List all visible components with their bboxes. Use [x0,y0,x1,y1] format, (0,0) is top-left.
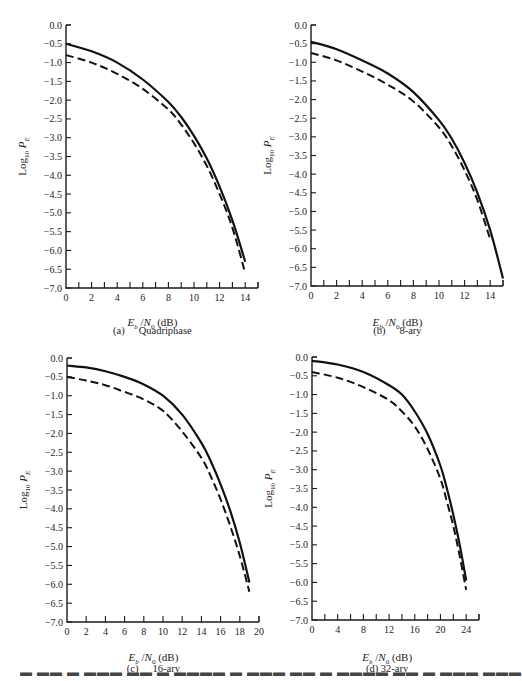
x-tick-label: 0 [309,290,314,301]
x-tick-label: 12 [460,290,470,301]
x-tick-label: 6 [140,292,145,303]
y-tick-label: −3.0 [44,132,62,143]
y-tick-label: −3.0 [290,464,308,475]
y-tick-label: −7.0 [289,281,307,292]
y-tick-label: −6.5 [44,264,62,275]
x-tick-label: 14 [196,626,206,637]
chart-panel-8-ary: 0.0−0.5−1.0−1.5−2.0−2.5−3.0−3.5−4.0−4.5−… [261,20,503,338]
y-tick-label: −6.5 [45,598,63,609]
y-tick-label: −2.5 [44,113,62,124]
x-tick-label: 12 [384,624,394,635]
y-tick-label: −4.5 [44,189,62,200]
y-tick-label: 0.0 [295,20,308,31]
y-tick-label: −2.0 [290,427,308,438]
y-tick-label: −4.5 [290,521,308,532]
x-tick-label: 4 [103,626,108,637]
x-tick-label: 8 [411,290,416,301]
x-tick-label: 4 [115,292,120,303]
y-tick-label: −0.5 [45,371,63,382]
x-tick-label: 12 [177,626,187,637]
x-tick-label: 2 [89,292,94,303]
x-tick-label: 24 [461,624,471,635]
y-tick-label: −5.5 [290,558,308,569]
y-tick-label: −1.5 [289,75,307,86]
x-tick-label: 4 [335,624,340,635]
truncated-caption-text: ▬ ▬▬ ▬ ▬▬▬ ▬▬ ▬ ▬▬▬▬ ▬ ▬▬▬ ▬▬ ▬ ▬▬▬▬ ▬▬ … [20,672,522,678]
dashed-curve [312,372,466,590]
x-tick-label: 18 [235,626,245,637]
y-tick-label: −0.5 [289,38,307,49]
x-tick-label: 8 [166,292,171,303]
y-tick-label: −5.5 [44,226,62,237]
x-tick-label: 0 [65,626,70,637]
y-tick-label: −2.5 [289,113,307,124]
truncated-figure-caption: ▬ ▬▬ ▬ ▬▬▬ ▬▬ ▬ ▬▬▬▬ ▬ ▬▬▬ ▬▬ ▬ ▬▬▬▬ ▬▬ … [20,672,522,681]
x-tick-label: 20 [254,626,264,637]
solid-curve [311,42,503,279]
x-tick-label: 8 [361,624,366,635]
x-tick-label: 4 [360,290,365,301]
x-tick-label: 8 [141,626,146,637]
y-tick-label: −1.5 [45,409,63,420]
y-tick-label: −1.0 [45,390,63,401]
y-tick-label: −1.0 [290,389,308,400]
y-tick-label: −5.0 [290,539,308,550]
y-tick-label: −5.5 [289,225,307,236]
y-tick-label: −1.5 [290,408,308,419]
x-tick-label: 10 [434,290,444,301]
y-tick-label: −4.0 [44,170,62,181]
y-tick-label: −6.5 [289,262,307,273]
y-tick-label: −4.5 [289,187,307,198]
x-tick-label: 6 [385,290,390,301]
y-tick-label: −3.5 [289,150,307,161]
y-tick-label: −6.0 [44,245,62,256]
y-axis-label: Log10 PE [17,470,32,509]
y-axis-label: Log10 PE [16,137,31,176]
y-tick-label: −2.0 [45,428,63,439]
y-tick-label: 0.0 [50,20,63,31]
y-tick-label: −4.5 [45,522,63,533]
axis-lines [67,358,259,622]
y-tick-label: −1.0 [44,57,62,68]
x-tick-label: 6 [122,626,127,637]
y-tick-label: −6.0 [289,243,307,254]
y-tick-label: −6.5 [290,596,308,607]
y-tick-label: −1.5 [44,76,62,87]
y-axis-label: Log10 PE [262,469,277,508]
x-tick-label: 12 [215,292,225,303]
x-tick-label: 14 [240,292,250,303]
dashed-curve [67,377,249,592]
axis-lines [312,357,479,620]
y-tick-label: −6.0 [290,577,308,588]
chart-panel-32-ary: 0.0−0.5−1.0−1.5−2.0−2.5−3.0−3.5−4.0−4.5−… [262,352,479,676]
x-tick-label: 0 [64,292,69,303]
y-tick-label: −3.5 [44,151,62,162]
x-tick-label: 16 [410,624,420,635]
solid-curve [312,361,466,581]
solid-curve [66,44,245,262]
y-tick-label: −7.0 [290,615,308,626]
dashed-curve [66,55,245,273]
x-tick-label: 20 [435,624,445,635]
y-tick-label: −2.0 [44,95,62,106]
x-tick-label: 0 [310,624,315,635]
y-tick-label: −0.5 [290,370,308,381]
y-tick-label: −3.0 [45,466,63,477]
y-tick-label: −7.0 [45,617,63,628]
y-tick-label: 0.0 [296,352,309,363]
y-tick-label: −2.5 [45,447,63,458]
chart-panel-16-ary: 0.0−0.5−1.0−1.5−2.0−2.5−3.0−3.5−4.0−4.5−… [17,353,264,676]
y-tick-label: −3.5 [290,483,308,494]
chart-panel-quadriphase: 0.0−0.5−1.0−1.5−2.0−2.5−3.0−3.5−4.0−4.5−… [16,20,258,338]
y-tick-label: −1.0 [289,57,307,68]
x-tick-label: 10 [189,292,199,303]
y-tick-label: −7.0 [44,283,62,294]
y-tick-label: −5.0 [44,207,62,218]
y-tick-label: −2.5 [290,445,308,456]
y-tick-label: −6.0 [45,579,63,590]
axis-lines [311,25,503,286]
y-axis-label: Log10 PE [261,136,276,175]
x-tick-label: 10 [158,626,168,637]
y-tick-label: −5.0 [289,206,307,217]
y-tick-label: −0.5 [44,38,62,49]
